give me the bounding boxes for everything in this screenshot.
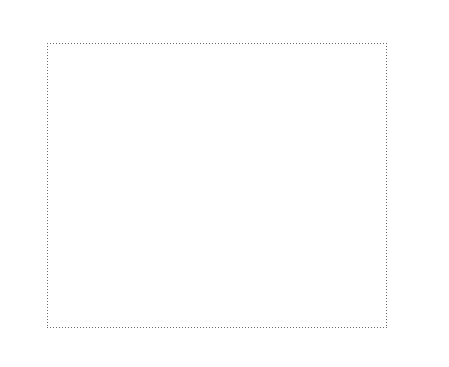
scatterplot-page [0, 0, 449, 367]
axis-frame-top [47, 43, 387, 44]
x-axis-bottom-tick-labels [0, 336, 449, 345]
x-axis-top-tick-labels [0, 31, 449, 40]
axis-frame-right [386, 43, 387, 328]
axis-frame-bottom [47, 327, 387, 328]
plot-area [47, 43, 387, 328]
axis-frame-left [47, 43, 48, 328]
